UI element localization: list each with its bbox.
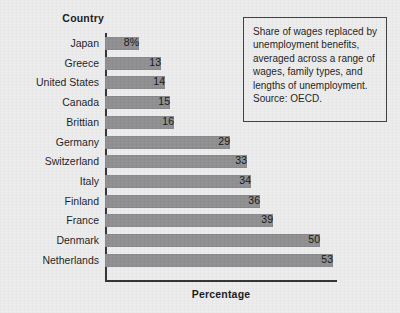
bar-value-label: 50 (105, 233, 324, 246)
bar-row: Germany29 (105, 136, 230, 149)
bar-value-label: 8% (105, 36, 143, 49)
value-axis-title: Percentage (105, 288, 337, 300)
bar-row: Denmark50 (105, 234, 320, 247)
bar-value-label: 13 (105, 56, 165, 69)
bar-category-label: Germany (0, 134, 99, 150)
bar-row: Finland36 (105, 195, 260, 208)
bar-category-label: Switzerland (0, 153, 99, 169)
bar-value-label: 34 (105, 174, 255, 187)
bar-row: Japan8% (105, 37, 139, 50)
bar-value-label: 14 (105, 75, 169, 88)
bar-value-label: 15 (105, 95, 174, 108)
bar-row: France39 (105, 214, 273, 227)
bar-category-label: Denmark (0, 232, 99, 248)
bar-value-label: 33 (105, 154, 251, 167)
bar-value-label: 39 (105, 213, 277, 226)
annotation-box: Share of wages replaced by unemployment … (243, 17, 387, 122)
bar-value-label: 53 (105, 253, 337, 266)
bar-category-label: United States (0, 74, 99, 90)
bar-category-label: Netherlands (0, 252, 99, 268)
bar-row: Switzerland33 (105, 155, 247, 168)
bar-category-label: Canada (0, 94, 99, 110)
bar-category-label: Brittian (0, 114, 99, 130)
bar-value-label: 36 (105, 194, 264, 207)
bar-row: Greece13 (105, 57, 161, 70)
bar-category-label: Japan (0, 35, 99, 51)
bar-value-label: 16 (105, 115, 178, 128)
bar-value-label: 29 (105, 135, 234, 148)
bar-row: Italy34 (105, 175, 251, 188)
bar-row: United States14 (105, 76, 165, 89)
bar-row: Netherlands53 (105, 254, 333, 267)
bar-row: Canada15 (105, 96, 170, 109)
category-axis-title: Country (0, 12, 104, 24)
bar-category-label: France (0, 212, 99, 228)
chart-figure: Country Japan8%Greece13United States14Ca… (0, 0, 400, 313)
bar-category-label: Italy (0, 173, 99, 189)
bar-category-label: Greece (0, 55, 99, 71)
bar-row: Brittian16 (105, 116, 174, 129)
bar-category-label: Finland (0, 193, 99, 209)
annotation-text: Share of wages replaced by unemployment … (253, 25, 378, 105)
